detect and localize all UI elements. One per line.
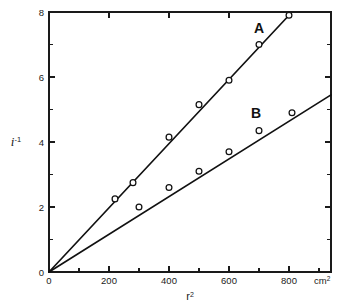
series-markers [112, 12, 295, 210]
series-annotation-labels: AB [251, 20, 264, 121]
chart-plot-svg: 020040060080002468cm2 AB r2i-1 [0, 0, 343, 308]
data-point-marker-b [226, 149, 232, 155]
series-annotation-a: A [254, 20, 264, 36]
data-point-marker-b [256, 128, 262, 134]
y-axis-title: i-1 [11, 134, 21, 149]
x-tick-label: 800 [281, 275, 297, 286]
data-point-marker-b [196, 168, 202, 174]
x-tick-label: 0 [46, 275, 51, 286]
x-axis-unit-label: cm2 [314, 275, 331, 287]
data-point-marker-b [166, 185, 172, 191]
y-tick-label: 4 [39, 137, 44, 148]
data-point-marker-b [136, 204, 142, 210]
data-point-marker-a [286, 12, 292, 18]
y-tick-label: 8 [39, 7, 44, 18]
tick-labels: 020040060080002468cm2 [39, 7, 331, 287]
data-point-marker-a [166, 134, 172, 140]
y-tick-label: 0 [39, 267, 44, 278]
data-point-marker-a [196, 102, 202, 108]
tick-marks [49, 12, 331, 272]
data-point-marker-a [226, 77, 232, 83]
data-point-marker-a [256, 42, 262, 48]
x-axis-title: r2 [186, 290, 194, 302]
axis-frame [49, 12, 331, 272]
series-annotation-b: B [251, 105, 261, 121]
data-point-marker-a [112, 196, 118, 202]
y-tick-label: 6 [39, 72, 44, 83]
chart-figure: 020040060080002468cm2 AB r2i-1 [0, 0, 343, 308]
x-tick-label: 600 [221, 275, 237, 286]
axis-frame-box [49, 12, 331, 272]
y-tick-label: 2 [39, 202, 44, 213]
data-point-marker-a [130, 180, 136, 186]
x-tick-label: 400 [161, 275, 177, 286]
series-lines [49, 15, 331, 272]
data-point-marker-b [289, 110, 295, 116]
x-tick-label: 200 [101, 275, 117, 286]
